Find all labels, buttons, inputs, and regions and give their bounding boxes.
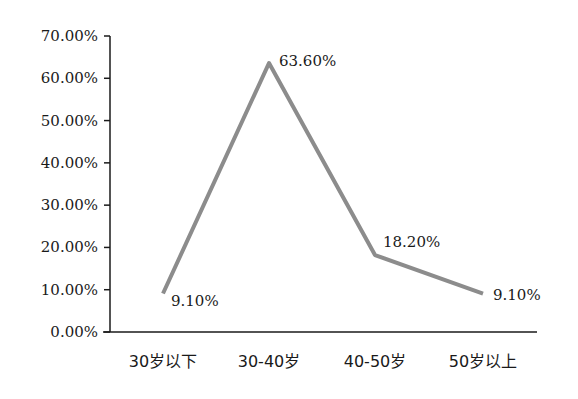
line-chart: 0.00%10.00%20.00%30.00%40.00%50.00%60.00… bbox=[0, 0, 578, 399]
series-line bbox=[163, 63, 483, 293]
y-tick-label: 0.00% bbox=[50, 323, 98, 341]
x-category-label: 30岁以下 bbox=[129, 352, 197, 371]
y-tick-label: 10.00% bbox=[41, 281, 98, 299]
data-labels: 9.10%63.60%18.20%9.10% bbox=[171, 52, 541, 309]
y-tick-label: 40.00% bbox=[41, 154, 98, 172]
y-tick-label: 30.00% bbox=[41, 196, 98, 214]
x-axis: 30岁以下30-40岁40-50岁50岁以上 bbox=[103, 332, 537, 371]
data-point-label: 18.20% bbox=[383, 233, 440, 251]
x-category-label: 50岁以上 bbox=[449, 352, 517, 371]
data-point-label: 9.10% bbox=[493, 286, 541, 304]
x-category-label: 40-50岁 bbox=[344, 352, 407, 371]
data-point-label: 9.10% bbox=[171, 292, 219, 310]
y-tick-label: 70.00% bbox=[41, 27, 98, 45]
y-tick-label: 20.00% bbox=[41, 238, 98, 256]
y-axis: 0.00%10.00%20.00%30.00%40.00%50.00%60.00… bbox=[41, 27, 110, 341]
x-category-label: 30-40岁 bbox=[238, 352, 301, 371]
data-point-label: 63.60% bbox=[279, 52, 336, 70]
y-tick-label: 60.00% bbox=[41, 69, 98, 87]
y-tick-label: 50.00% bbox=[41, 112, 98, 130]
data-series bbox=[163, 63, 483, 293]
